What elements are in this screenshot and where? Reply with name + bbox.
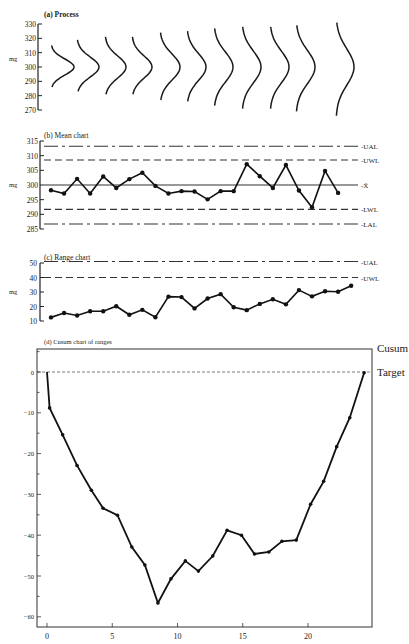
- y-tick-label: 295: [27, 196, 39, 205]
- y-tick-label: −60: [24, 613, 34, 620]
- data-point: [232, 189, 236, 193]
- distribution-curve: [78, 40, 100, 92]
- reference-label: -UWL: [361, 275, 379, 283]
- data-point: [336, 191, 340, 195]
- data-point: [267, 550, 271, 554]
- data-point: [49, 315, 53, 319]
- distribution-curve: [271, 27, 289, 109]
- distribution-curve: [133, 37, 153, 94]
- data-point: [62, 311, 66, 315]
- y-tick-label: 50: [30, 259, 38, 268]
- reference-label: -X̄: [361, 182, 368, 190]
- data-point: [184, 559, 188, 563]
- y-tick-label: 290: [25, 77, 37, 86]
- data-point: [116, 513, 120, 517]
- data-point: [166, 191, 170, 195]
- data-point: [284, 302, 288, 306]
- range-series-line: [51, 286, 351, 318]
- data-point: [130, 545, 134, 549]
- cusum-chart: (d) Cusum chart of rangesCusumTarget0−10…: [24, 338, 409, 641]
- y-tick-label: 330: [25, 20, 37, 29]
- data-point: [284, 163, 288, 167]
- y-tick-label: 40: [30, 274, 38, 283]
- data-point: [127, 313, 131, 317]
- data-point: [114, 304, 118, 308]
- data-point: [49, 188, 53, 192]
- y-axis-label: mg: [9, 181, 18, 188]
- data-point: [169, 577, 173, 581]
- data-point: [88, 309, 92, 313]
- distribution-curve: [188, 31, 206, 101]
- data-point: [271, 297, 275, 301]
- data-point: [240, 533, 244, 537]
- y-tick-label: 310: [27, 152, 39, 161]
- data-point: [156, 601, 160, 605]
- y-tick-label: 0: [31, 369, 34, 376]
- y-tick-label: 320: [25, 34, 37, 43]
- chart-title: (c) Range chart: [44, 253, 91, 262]
- data-point: [90, 489, 94, 493]
- data-point: [205, 197, 209, 201]
- y-tick-label: 20: [30, 303, 38, 312]
- x-tick-label: 10: [174, 632, 182, 641]
- data-point: [310, 205, 314, 209]
- data-point: [101, 506, 105, 510]
- data-point: [127, 177, 131, 181]
- y-tick-label: 300: [27, 181, 39, 190]
- data-point: [309, 502, 313, 506]
- data-point: [232, 305, 236, 309]
- y-tick-label: 270: [25, 106, 37, 115]
- data-point: [205, 296, 209, 300]
- plot-frame: [37, 349, 372, 627]
- data-point: [101, 309, 105, 313]
- data-point: [153, 315, 157, 319]
- data-point: [179, 295, 183, 299]
- data-point: [323, 169, 327, 173]
- data-point: [294, 538, 298, 542]
- y-axis-label: mg: [9, 55, 18, 62]
- y-tick-label: 315: [27, 137, 39, 146]
- x-tick-label: 15: [239, 632, 247, 641]
- data-point: [166, 294, 170, 298]
- data-point: [336, 290, 340, 294]
- y-axis-label: Cusum: [377, 342, 409, 354]
- y-axis-label: mg: [9, 288, 18, 295]
- data-point: [75, 313, 79, 317]
- distribution-curve: [297, 25, 316, 111]
- target-label: Target: [377, 366, 405, 378]
- reference-label: -UAL: [361, 143, 378, 151]
- y-tick-label: 285: [27, 225, 39, 234]
- reference-label: -LAL: [361, 221, 377, 229]
- y-tick-label: −10: [24, 409, 34, 416]
- data-point: [218, 292, 222, 296]
- y-tick-label: 305: [27, 166, 39, 175]
- distribution-curve: [336, 23, 354, 116]
- range-chart: (c) Range chart1020304050mg-UAL-UWL: [9, 253, 379, 326]
- distribution-curve: [52, 46, 74, 88]
- data-point: [310, 294, 314, 298]
- data-point: [153, 184, 157, 188]
- distribution-curve: [243, 27, 261, 109]
- data-point: [75, 464, 79, 468]
- data-point: [362, 371, 366, 375]
- data-point: [258, 302, 262, 306]
- chart-title: (b) Mean chart: [44, 131, 89, 140]
- x-tick-label: 0: [45, 632, 49, 641]
- y-tick-label: −50: [24, 573, 34, 580]
- reference-label: -UWL: [361, 157, 379, 165]
- reference-label: -UAL: [361, 259, 378, 267]
- y-tick-label: 10: [30, 317, 38, 326]
- control-charts-figure: (a) Process270280290300310320330mg (b) M…: [0, 0, 409, 644]
- data-point: [280, 540, 284, 544]
- data-point: [61, 433, 65, 437]
- process-chart: (a) Process270280290300310320330mg: [9, 10, 354, 116]
- data-point: [297, 188, 301, 192]
- data-point: [258, 174, 262, 178]
- data-point: [75, 177, 79, 181]
- data-point: [88, 191, 92, 195]
- distribution-curve: [161, 33, 180, 100]
- data-point: [271, 186, 275, 190]
- y-tick-label: −20: [24, 450, 34, 457]
- data-point: [323, 289, 327, 293]
- distribution-curve: [106, 37, 127, 94]
